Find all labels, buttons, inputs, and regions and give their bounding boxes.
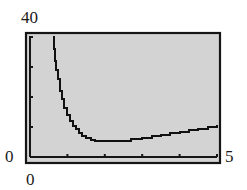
calculator-graph-screen <box>0 0 247 190</box>
